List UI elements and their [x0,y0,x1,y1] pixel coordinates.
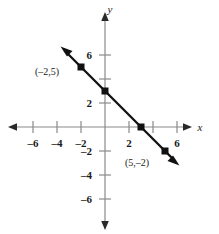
point-label-5-neg2: (5,–2) [125,157,149,169]
y-axis-arrow-down [101,221,109,230]
x-tick-label-neg4: –4 [51,137,64,149]
x-axis-label: x [197,121,203,133]
x-axis-arrow-left [8,123,17,131]
point-marker-0-3 [102,88,109,95]
graph-canvas: –6 –4 –2 2 6 6 2 –2 –4 –6 x y [0,0,219,234]
axes-group [8,12,192,230]
y-tick-label-neg6: –6 [80,193,93,205]
x-tick-label-pos2: 2 [126,137,132,149]
y-tick-label-pos2: 2 [87,97,93,109]
y-axis-label: y [107,3,113,15]
y-tick-label-pos6: 6 [87,49,93,61]
x-tick-label-neg6: –6 [27,137,40,149]
x-axis-arrow-right [183,123,192,131]
coordinate-plane-figure: –6 –4 –2 2 6 6 2 –2 –4 –6 x y [0,0,219,234]
point-marker-3-0 [138,124,145,131]
line-arrow-lower-right [168,156,180,166]
y-tick-label-neg4: –4 [80,169,93,181]
y-tick-label-neg2: –2 [80,145,93,157]
line-arrow-upper-left [61,47,73,57]
point-marker-neg2-5 [78,64,85,71]
point-label-neg2-5: (–2,5) [35,66,59,78]
point-marker-5-neg2 [162,148,169,155]
x-tick-label-pos6: 6 [174,137,180,149]
